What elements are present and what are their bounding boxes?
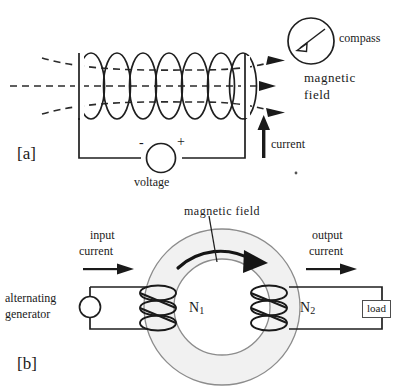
panel-a-tag: [a]	[17, 144, 36, 163]
speck-artifact	[295, 172, 298, 175]
primary-turns-subscript: 1	[199, 305, 204, 316]
magnetic-field-label-line2: field	[304, 88, 330, 103]
secondary-turns-letter: N	[300, 300, 310, 315]
output-current-arrow	[306, 264, 357, 275]
alternating-generator-label-line1: alternating	[5, 292, 56, 305]
voltage-source-symbol	[147, 144, 176, 173]
current-arrow-a	[258, 115, 271, 158]
load-box: load	[362, 300, 391, 318]
secondary-turns-subscript: 2	[310, 305, 315, 316]
alternating-generator-label-line2: generator	[5, 308, 50, 321]
input-current-label-line2: current	[79, 245, 113, 258]
terminal-negative-label: -	[139, 135, 144, 151]
terminal-positive-label: +	[177, 134, 185, 150]
compass-symbol	[288, 18, 334, 64]
compass-label: compass	[339, 32, 380, 45]
figure-drawing	[0, 0, 413, 386]
current-label-a: current	[271, 138, 305, 151]
magnetic-field-label-b: magnetic field	[184, 205, 260, 218]
input-current-label-line1: input	[90, 229, 115, 242]
primary-turns-letter: N	[189, 300, 199, 315]
voltage-label: voltage	[134, 176, 169, 189]
output-current-label-line2: current	[309, 245, 343, 258]
magnetic-field-lines-a	[10, 58, 280, 114]
secondary-turns-label: N2	[300, 300, 315, 316]
output-current-label-line1: output	[312, 229, 343, 242]
input-current-arrow	[83, 264, 134, 275]
primary-turns-label: N1	[189, 300, 204, 316]
magnetic-field-label-line1: magnetic	[304, 71, 356, 86]
alternating-generator-symbol	[80, 297, 101, 318]
panel-b-tag: [b]	[17, 354, 37, 373]
electromagnetism-figure: [a] compass magnetic field current volta…	[0, 0, 413, 386]
